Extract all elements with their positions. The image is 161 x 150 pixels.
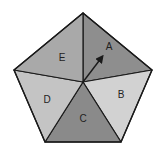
label-c: C [79,113,86,124]
pentagon-diagram: A B C D E [0,0,161,150]
section-e [14,13,83,82]
label-d: D [43,94,50,105]
label-e: E [59,52,66,63]
label-b: B [118,89,125,100]
label-a: A [106,41,113,52]
